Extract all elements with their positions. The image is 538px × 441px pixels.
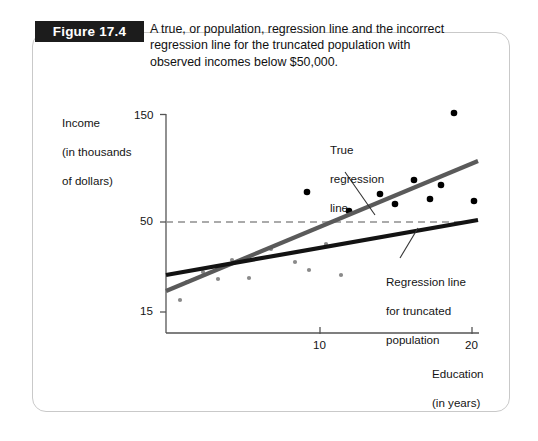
x-tick-label-10: 10 (313, 338, 326, 353)
annotation-true-regression-line: True regression line (330, 128, 384, 230)
annotation-line2: for truncated (386, 304, 466, 319)
y-tick-label-15: 15 (140, 304, 153, 319)
x-tick-label-20: 20 (465, 338, 478, 353)
annotation-line3: line (330, 201, 384, 216)
y-tick-label-150: 150 (134, 108, 153, 123)
x-axis-label-line1: Education (432, 367, 484, 382)
y-axis-label-line2: (in thousands (62, 145, 132, 160)
annotation-line1: True (330, 143, 384, 158)
y-axis-label-line3: of dollars) (62, 174, 132, 189)
annotation-line3: population (386, 333, 466, 348)
y-axis-label: Income (in thousands of dollars) (62, 101, 132, 203)
x-axis-label: Education (in years) (432, 352, 484, 425)
figure-caption: A true, or population, regression line a… (150, 21, 450, 70)
annotation-line2: regression (330, 172, 384, 187)
annotation-line1: Regression line (386, 275, 466, 290)
y-tick-label-50: 50 (140, 214, 153, 229)
y-axis-label-line1: Income (62, 116, 132, 131)
x-axis-label-line2: (in years) (432, 396, 484, 411)
annotation-truncated-regression-line: Regression line for truncated population (386, 260, 466, 362)
figure-number-badge: Figure 17.4 (35, 21, 144, 42)
